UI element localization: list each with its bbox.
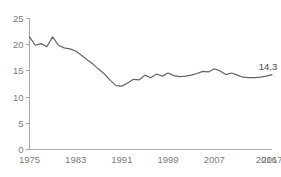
x-tick-label: 1991 — [111, 154, 132, 165]
x-axis: 1975198319911999200720162017 — [19, 150, 281, 165]
annotation-group: 14,3 — [259, 61, 278, 72]
y-tick-label: 10 — [13, 92, 24, 103]
x-tick-label: 2017 — [261, 154, 281, 165]
y-tick-label: 25 — [13, 13, 24, 24]
chart-canvas: 0510152025 1975198319911999200720162017 … — [0, 0, 281, 177]
end-value-label: 14,3 — [259, 61, 278, 72]
series-line-rate — [30, 37, 273, 86]
x-tick-label: 2007 — [204, 154, 225, 165]
y-axis: 0510152025 — [13, 13, 30, 155]
data-series-group — [30, 37, 273, 86]
x-tick-label: 1999 — [158, 154, 179, 165]
x-tick-label: 1983 — [65, 154, 86, 165]
x-tick-label: 1975 — [19, 154, 40, 165]
y-tick-label: 15 — [13, 65, 24, 76]
y-tick-label: 5 — [18, 118, 23, 129]
line-chart: 0510152025 1975198319911999200720162017 … — [0, 0, 281, 177]
y-tick-label: 20 — [13, 39, 24, 50]
